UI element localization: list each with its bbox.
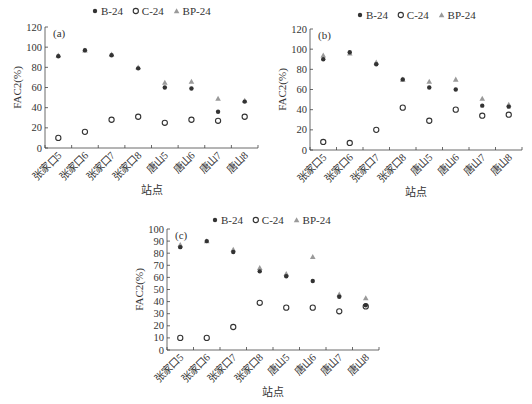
x-tick-label: 唐山5: [265, 351, 291, 377]
y-tick-label: 20: [32, 122, 43, 133]
y-tick-label: 0: [302, 145, 307, 156]
data-point: [136, 114, 141, 119]
data-point: [109, 53, 113, 57]
data-point: [109, 117, 114, 122]
series-BP-24: [320, 50, 511, 106]
legend: B-24C-24BP-24: [358, 9, 476, 21]
data-point: [162, 120, 167, 125]
y-tick-label: 0: [159, 345, 164, 356]
y-tick-label: 80: [32, 62, 43, 73]
y-tick-label: 120: [291, 24, 307, 35]
legend-marker-icon: [439, 12, 445, 17]
y-tick-label: 60: [297, 84, 308, 95]
x-axis-title: 站点: [262, 385, 284, 398]
x-tick-label: 张家口8: [110, 149, 143, 182]
x-tick-label: 张家口5: [295, 151, 328, 184]
x-tick-label: 唐山8: [488, 151, 514, 177]
x-tick-label: 唐山6: [435, 151, 461, 177]
x-tick-label: 张家口5: [30, 149, 63, 182]
series-C-24: [56, 114, 248, 140]
x-tick-label: 唐山7: [197, 149, 223, 175]
data-point: [311, 279, 315, 283]
legend-label: BP-24: [183, 5, 212, 17]
y-tick-label: 20: [154, 320, 165, 331]
x-tick-label: 张家口7: [348, 151, 381, 184]
y-tick-label: 80: [297, 64, 308, 75]
x-tick-label: 唐山7: [461, 151, 487, 177]
x-tick-label: 张家口5: [152, 351, 185, 384]
chart-panel-b: 020406080100120张家口5张家口6张家口7张家口8唐山5唐山6唐山7…: [266, 0, 532, 200]
x-tick-label: 唐山6: [292, 351, 318, 377]
legend-label: BP-24: [448, 9, 477, 21]
x-tick-label: 张家口8: [375, 151, 408, 184]
y-tick-label: 60: [32, 82, 43, 93]
data-point: [189, 86, 193, 90]
data-point: [178, 245, 182, 249]
data-point: [178, 335, 183, 340]
data-point: [506, 112, 511, 117]
data-point: [427, 85, 431, 89]
data-point: [337, 295, 341, 299]
legend-label: BP-24: [303, 214, 332, 226]
x-tick-label: 唐山5: [144, 149, 170, 175]
data-point: [480, 103, 484, 107]
legend-marker-icon: [133, 8, 138, 13]
legend: B-24C-24BP-24: [93, 5, 211, 17]
panel-label: (a): [53, 27, 66, 40]
data-point: [321, 57, 325, 61]
data-point: [56, 135, 61, 140]
chart-panel-a: 020406080100120张家口5张家口6张家口7张家口8唐山5唐山6唐山7…: [0, 0, 266, 200]
data-point: [231, 324, 236, 329]
x-axis-title: 站点: [405, 185, 427, 198]
data-point: [374, 62, 378, 66]
x-tick-label: 唐山7: [318, 351, 344, 377]
legend-label: B-24: [221, 214, 244, 226]
data-point: [348, 50, 352, 54]
data-point: [215, 118, 220, 123]
data-point: [242, 99, 246, 103]
legend-marker-icon: [253, 217, 258, 222]
y-tick-label: 80: [154, 248, 165, 259]
y-tick-label: 30: [154, 308, 165, 319]
y-tick-label: 50: [154, 284, 165, 295]
x-tick-label: 张家口8: [232, 351, 265, 384]
y-tick-label: 40: [32, 102, 43, 113]
data-point: [189, 117, 194, 122]
data-point: [284, 274, 288, 278]
data-point: [310, 305, 315, 310]
y-tick-label: 100: [26, 42, 42, 53]
data-point: [231, 250, 235, 254]
y-axis-title: FAC2(%): [11, 66, 24, 109]
y-tick-label: 90: [154, 236, 165, 247]
x-tick-label: 张家口6: [179, 351, 212, 384]
legend-marker-icon: [93, 9, 97, 13]
data-point: [507, 104, 511, 108]
data-point: [480, 113, 485, 118]
x-tick-label: 张家口7: [205, 351, 238, 384]
legend: B-24C-24BP-24: [213, 214, 331, 226]
data-point: [400, 105, 405, 110]
data-point: [321, 139, 326, 144]
legend-marker-icon: [174, 8, 180, 13]
data-point: [163, 85, 167, 89]
data-point: [479, 96, 485, 101]
data-point: [258, 269, 262, 273]
x-tick-label: 张家口6: [322, 151, 355, 184]
legend-marker-icon: [213, 218, 217, 222]
data-point: [257, 300, 262, 305]
legend-label: C-24: [407, 9, 430, 21]
data-point: [320, 52, 326, 57]
y-tick-label: 40: [297, 104, 308, 115]
data-point: [453, 107, 458, 112]
y-tick-label: 40: [154, 296, 165, 307]
y-tick-label: 70: [154, 260, 165, 271]
x-tick-label: 唐山6: [171, 149, 197, 175]
y-tick-label: 10: [154, 332, 165, 343]
y-tick-label: 60: [154, 272, 165, 283]
data-point: [363, 295, 369, 300]
data-point: [162, 80, 168, 85]
legend-marker-icon: [398, 12, 403, 17]
y-tick-label: 100: [291, 44, 307, 55]
x-tick-label: 唐山5: [408, 151, 434, 177]
data-point: [453, 77, 459, 82]
